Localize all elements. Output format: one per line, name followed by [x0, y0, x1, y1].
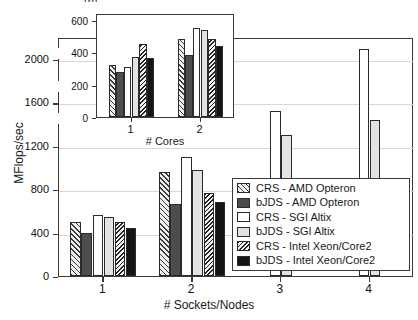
inset-bar — [109, 65, 116, 117]
legend-swatch-icon — [237, 212, 250, 222]
y-tick — [53, 103, 58, 104]
inset-bar — [124, 67, 131, 117]
bar — [93, 215, 104, 276]
bar — [181, 157, 192, 277]
legend-item[interactable]: CRS - AMD Opteron — [233, 181, 409, 196]
x-axis-label: # Sockets/Nodes — [0, 298, 418, 312]
legend-swatch-icon — [237, 256, 250, 266]
inset-x-tick — [200, 118, 201, 122]
inset-plot-area — [96, 14, 234, 118]
y-tick-label: 0 — [0, 271, 49, 282]
y-tick — [53, 277, 58, 278]
legend-label: CRS - Intel Xeon/Core2 — [256, 241, 372, 252]
bar — [81, 233, 92, 276]
bar — [104, 217, 115, 276]
inset-bar — [116, 72, 123, 117]
y-axis-label: MFlops/sec — [12, 105, 26, 201]
y-tick — [53, 190, 58, 191]
y-tick — [53, 60, 58, 61]
inset-y-tick-label: 200 — [54, 81, 88, 92]
x-tick-label: 2 — [171, 284, 211, 295]
bar — [215, 202, 226, 276]
legend-label: bJDS - Intel Xeon/Core2 — [256, 255, 375, 266]
legend-item[interactable]: CRS - Intel Xeon/Core2 — [233, 239, 409, 254]
bar — [126, 228, 137, 276]
legend-item[interactable]: bJDS - SGI Altix — [233, 225, 409, 240]
inset-bar — [132, 57, 139, 117]
inset-bar — [147, 58, 154, 117]
legend-label: bJDS - SGI Altix — [256, 226, 335, 237]
inset-y-tick — [92, 21, 96, 22]
legend-label: CRS - SGI Altix — [256, 212, 331, 223]
inset-bar — [193, 28, 200, 117]
legend-swatch-icon — [237, 198, 250, 208]
legend-item[interactable]: bJDS - Intel Xeon/Core2 — [233, 254, 409, 269]
inset-y-tick-label: 0 — [54, 113, 88, 124]
inset-y-tick-label: 600 — [54, 16, 88, 27]
bar — [192, 170, 203, 276]
bar — [204, 193, 215, 276]
legend-item[interactable]: CRS - SGI Altix — [233, 210, 409, 225]
figure-root: (b) 04008001200160020001234 MFlops/sec #… — [0, 0, 418, 320]
inset-bar — [139, 44, 146, 117]
inset-bar — [208, 39, 215, 117]
inset-x-tick-label: 2 — [185, 124, 215, 135]
x-tick-label: 1 — [82, 284, 122, 295]
inset-y-tick-label: 400 — [54, 48, 88, 59]
inset-bar — [178, 39, 185, 117]
x-tick-label: 3 — [260, 284, 300, 295]
y-tick-label: 2000 — [0, 54, 49, 65]
legend-item[interactable]: bJDS - AMD Opteron — [233, 196, 409, 211]
legend-swatch-icon — [237, 241, 250, 251]
legend-label: bJDS - AMD Opteron — [256, 197, 359, 208]
legend-label: CRS - AMD Opteron — [256, 183, 356, 194]
y-tick — [53, 234, 58, 235]
x-tick-label: 4 — [349, 284, 389, 295]
inset-y-tick — [92, 53, 96, 54]
legend: CRS - AMD OpteronbJDS - AMD OpteronCRS -… — [232, 178, 410, 271]
bar — [170, 204, 181, 276]
bar — [70, 222, 81, 276]
inset-bar — [216, 46, 223, 117]
bar — [115, 222, 126, 276]
y-tick-label: 400 — [0, 228, 49, 239]
inset-y-tick — [92, 86, 96, 87]
inset-x-axis-label: # Cores — [96, 135, 234, 147]
inset-x-tick-label: 1 — [116, 124, 146, 135]
legend-swatch-icon — [237, 183, 250, 193]
legend-swatch-icon — [237, 227, 250, 237]
caption-fragment: (b) — [84, 0, 97, 2]
y-tick — [53, 147, 58, 148]
bar — [159, 172, 170, 276]
inset-bar — [185, 55, 192, 117]
inset-bar — [201, 30, 208, 117]
inset-y-tick — [92, 118, 96, 119]
inset-x-tick — [131, 118, 132, 122]
